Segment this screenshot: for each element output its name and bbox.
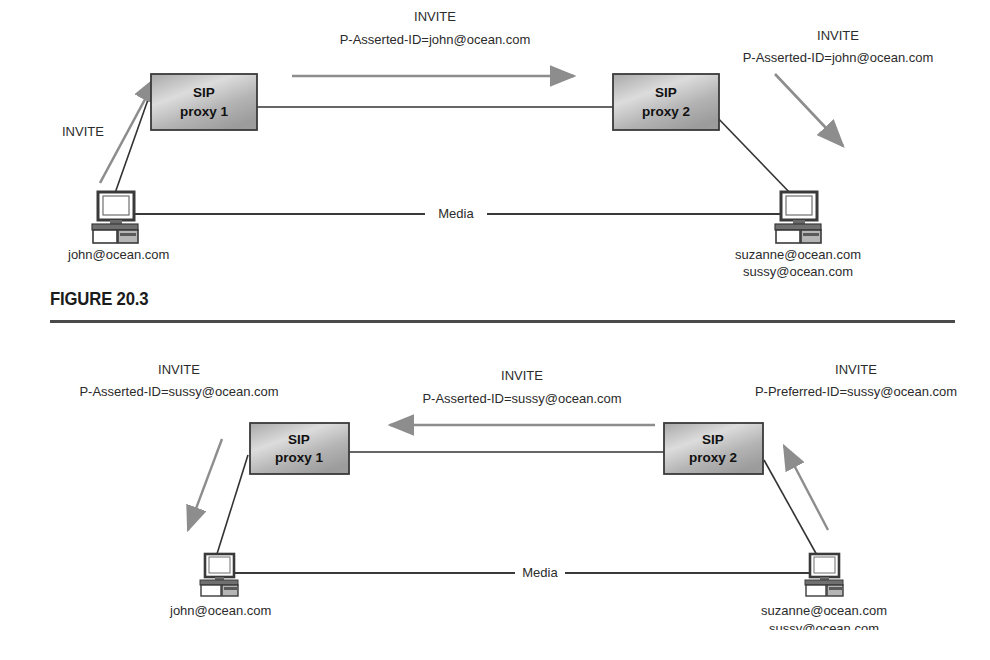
label-sussy-email: sussy@ocean.com: [769, 621, 879, 630]
figure-caption-20-3: FIGURE 20.3: [50, 288, 148, 310]
link-proxy2-suzanne: [764, 460, 818, 557]
figure-20-4: Media SIP proxy 1 SIP proxy 2: [0, 330, 990, 660]
signal-right-line1: INVITE: [817, 28, 859, 43]
computer-icon-suzanne[interactable]: [805, 554, 843, 596]
sip-proxy-2-line1: SIP: [702, 432, 724, 447]
figure-20-3: Media SIP proxy 1 SIP proxy 2: [0, 0, 990, 330]
signal-left-line2: P-Asserted-ID=sussy@ocean.com: [79, 384, 278, 399]
arrow-left-invite: [100, 77, 157, 183]
diagram-20-4: Media SIP proxy 1 SIP proxy 2: [0, 330, 990, 630]
label-john-email: john@ocean.com: [169, 603, 271, 618]
label-sussy-email: sussy@ocean.com: [743, 264, 853, 279]
sip-proxy-1-line2: proxy 1: [180, 104, 229, 119]
signal-label-left-20-3: INVITE: [62, 124, 104, 139]
sip-proxy-2-box[interactable]: [613, 74, 719, 130]
signal-middle-line2: P-Asserted-ID=john@ocean.com: [340, 32, 531, 47]
sip-proxy-2-line1: SIP: [655, 85, 677, 100]
link-john-proxy1: [114, 77, 156, 196]
sip-proxy-1-box[interactable]: [250, 423, 349, 474]
signal-label-right-20-4: INVITE P-Preferred-ID=sussy@ocean.com: [755, 362, 957, 399]
signal-left-line1: INVITE: [158, 362, 200, 377]
computer-icon-suzanne[interactable]: [775, 192, 821, 243]
arrow-right-invite: [784, 446, 828, 530]
signal-label-left-20-4: INVITE P-Asserted-ID=sussy@ocean.com: [79, 362, 278, 399]
media-link-20-3: Media: [112, 206, 798, 221]
signal-middle-line2: P-Asserted-ID=sussy@ocean.com: [422, 391, 621, 406]
computer-icon-john[interactable]: [92, 192, 138, 243]
signal-middle-line1: INVITE: [501, 368, 543, 383]
node-sip-proxy-1[interactable]: SIP proxy 1: [151, 74, 257, 130]
media-link-20-4: Media: [215, 565, 822, 580]
signal-right-line2: P-Asserted-ID=john@ocean.com: [743, 50, 934, 65]
signal-right-line1: INVITE: [835, 362, 877, 377]
node-sip-proxy-1[interactable]: SIP proxy 1: [250, 423, 349, 474]
label-suzanne-email: suzanne@ocean.com: [735, 247, 861, 262]
figure-rule-20-3: [50, 320, 955, 323]
link-john-proxy1: [216, 455, 248, 557]
node-sip-proxy-2[interactable]: SIP proxy 2: [613, 74, 719, 130]
arrow-right-invite: [775, 74, 843, 146]
media-label: Media: [438, 206, 474, 221]
sip-proxy-1-box[interactable]: [151, 74, 257, 130]
sip-proxy-2-line2: proxy 2: [642, 104, 690, 119]
computer-icon-john[interactable]: [200, 554, 238, 596]
media-label: Media: [522, 565, 558, 580]
signal-label-right-20-3: INVITE P-Asserted-ID=john@ocean.com: [743, 28, 934, 65]
node-sip-proxy-2[interactable]: SIP proxy 2: [664, 423, 763, 474]
arrow-left-invite: [188, 439, 222, 530]
label-suzanne-email: suzanne@ocean.com: [761, 603, 887, 618]
sip-proxy-1-line1: SIP: [288, 432, 310, 447]
sip-proxy-1-line2: proxy 1: [275, 450, 324, 465]
label-john-email: john@ocean.com: [67, 247, 169, 262]
signal-label-middle-20-4: INVITE P-Asserted-ID=sussy@ocean.com: [422, 368, 621, 406]
link-proxy2-suzanne: [713, 113, 793, 196]
diagram-20-3: Media SIP proxy 1 SIP proxy 2: [0, 0, 990, 300]
sip-proxy-1-line1: SIP: [193, 85, 215, 100]
sip-proxy-2-line2: proxy 2: [689, 450, 737, 465]
sip-proxy-2-box[interactable]: [664, 423, 763, 474]
signal-middle-line1: INVITE: [414, 9, 456, 24]
figure-page: Media SIP proxy 1 SIP proxy 2: [0, 0, 990, 660]
signal-right-line2: P-Preferred-ID=sussy@ocean.com: [755, 384, 957, 399]
signal-left-line1: INVITE: [62, 124, 104, 139]
signal-label-middle-20-3: INVITE P-Asserted-ID=john@ocean.com: [340, 9, 531, 47]
